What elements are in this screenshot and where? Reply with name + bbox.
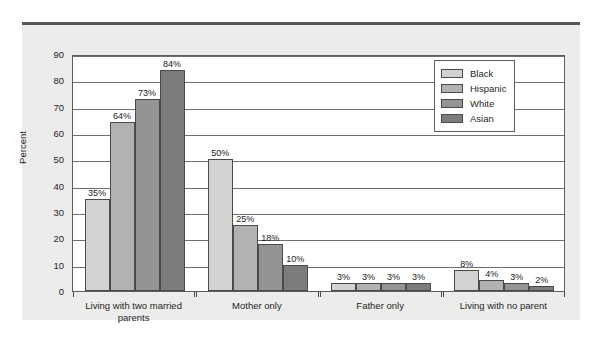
bar-hispanic-group-1: [110, 122, 135, 291]
y-axis-tick-label: 90: [53, 50, 64, 60]
y-axis-tick-label: 80: [53, 77, 64, 87]
legend-label: Asian: [470, 113, 494, 124]
x-axis-group-label: Mother only: [187, 300, 327, 312]
legend-item-black: Black: [441, 66, 506, 81]
scanned-page: 0102030405060708090 Percent 35%64%73%84%…: [0, 0, 604, 339]
x-axis-group-label: Father only: [310, 300, 450, 312]
bar-value-label: 3%: [402, 273, 435, 282]
x-axis-group-label: Living with two marriedparents: [64, 300, 204, 324]
legend-label: White: [470, 98, 494, 109]
x-axis-tick: [73, 292, 74, 297]
x-axis-tick: [320, 292, 321, 297]
y-axis-tick-label: 20: [53, 235, 64, 245]
x-axis-tick: [196, 292, 197, 297]
top-rule-divider: [22, 22, 580, 25]
legend-swatch-white: [441, 99, 463, 108]
bar-white-group-3: [381, 283, 406, 291]
x-axis-tick: [564, 292, 565, 297]
bar-value-label: 8%: [450, 260, 483, 269]
bar-black-group-3: [331, 283, 356, 291]
legend-swatch-hispanic: [441, 84, 463, 93]
x-axis-group-label-line: parents: [64, 312, 204, 324]
bar-value-label: 84%: [156, 60, 189, 69]
x-axis-group-label-line: Mother only: [187, 300, 327, 312]
gridline: [73, 56, 564, 57]
legend-item-asian: Asian: [441, 111, 506, 126]
figure-panel: 0102030405060708090 Percent 35%64%73%84%…: [22, 22, 580, 320]
x-axis-group-label: Living with no parent: [433, 300, 573, 312]
bar-value-label: 10%: [279, 255, 312, 264]
y-axis-tick-labels: 0102030405060708090: [42, 55, 68, 292]
x-axis-tick: [318, 292, 319, 297]
bar-asian-group-2: [283, 265, 308, 291]
bar-value-label: 2%: [525, 276, 558, 285]
y-axis-tick-label: 0: [59, 287, 64, 297]
x-axis: Living with two marriedparentsMother onl…: [72, 292, 565, 336]
x-axis-group-label-line: Living with two married: [64, 300, 204, 312]
x-axis-tick: [194, 292, 195, 297]
bar-asian-group-3: [406, 283, 431, 291]
y-axis-tick-label: 30: [53, 208, 64, 218]
bar-asian-group-1: [160, 70, 185, 291]
legend-swatch-black: [441, 69, 463, 78]
y-axis-tick-label: 50: [53, 156, 64, 166]
bar-asian-group-4: [529, 286, 554, 291]
legend-item-white: White: [441, 96, 506, 111]
x-axis-group-label-line: Father only: [310, 300, 450, 312]
y-axis-title: Percent: [17, 131, 28, 164]
bar-value-label: 50%: [204, 149, 237, 158]
bar-hispanic-group-3: [356, 283, 381, 291]
y-axis-tick-label: 10: [53, 261, 64, 271]
x-axis-tick: [441, 292, 442, 297]
legend-item-hispanic: Hispanic: [441, 81, 506, 96]
bar-white-group-2: [258, 244, 283, 291]
bar-value-label: 25%: [229, 215, 262, 224]
y-axis-tick-label: 60: [53, 129, 64, 139]
chart-legend: BlackHispanicWhiteAsian: [434, 60, 515, 132]
x-axis-group-label-line: Living with no parent: [433, 300, 573, 312]
x-axis-tick: [443, 292, 444, 297]
y-axis-tick-label: 40: [53, 182, 64, 192]
legend-label: Black: [470, 68, 493, 79]
bar-white-group-1: [135, 99, 160, 291]
bar-black-group-2: [208, 159, 233, 291]
legend-swatch-asian: [441, 114, 463, 123]
bar-black-group-1: [85, 199, 110, 291]
legend-label: Hispanic: [470, 83, 506, 94]
bar-value-label: 18%: [254, 234, 287, 243]
y-axis-tick-label: 70: [53, 103, 64, 113]
